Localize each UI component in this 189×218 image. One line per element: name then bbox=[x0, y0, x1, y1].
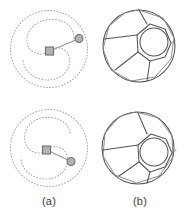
panel-spiral-bottom-left bbox=[4, 103, 94, 193]
caption-a: (a) bbox=[19, 193, 79, 209]
cell-divider-lower-left bbox=[119, 162, 139, 176]
caption-row: (a) (b) bbox=[0, 193, 189, 215]
source-square-marker bbox=[43, 146, 51, 154]
cell-divider-upper bbox=[138, 113, 147, 134]
inner-circle bbox=[140, 138, 168, 166]
cell-divider-lower-left bbox=[115, 52, 138, 70]
panel-spiral-top-left bbox=[4, 4, 94, 94]
panel-cell-bottom-right bbox=[95, 103, 185, 193]
caption-b: (b) bbox=[110, 193, 170, 209]
source-square-marker bbox=[46, 47, 54, 55]
cell-divider-left bbox=[103, 145, 138, 150]
cell-divider-lower bbox=[147, 172, 150, 183]
inner-heptagon bbox=[137, 24, 171, 61]
figure-root: (a) (b) bbox=[0, 0, 189, 218]
cell-divider-left bbox=[104, 35, 137, 39]
endpoint-circle-marker bbox=[67, 158, 75, 166]
panel-cell-top-right bbox=[95, 4, 185, 94]
inner-circle bbox=[140, 28, 168, 56]
spiral-arm-line bbox=[50, 39, 78, 51]
endpoint-circle-marker bbox=[75, 35, 83, 43]
